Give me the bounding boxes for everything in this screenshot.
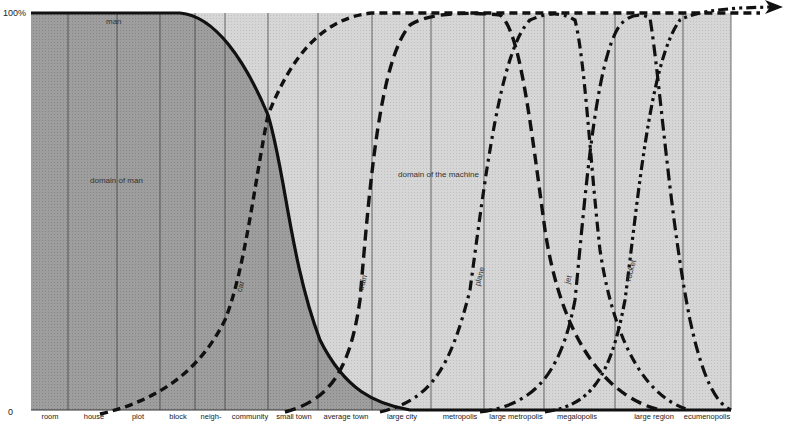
x-label-plot: plot [132,413,144,421]
x-label-room: room [41,413,58,421]
chart [0,0,785,428]
x-label-large-city: large city [387,413,417,421]
x-label-metropolis: metropolis [443,413,478,421]
label-domain-of-man: domain of man [90,176,143,185]
label-domain-of-machine: domain of the machine [398,170,479,179]
x-label-neighbourhood: neigh- [201,413,222,421]
x-label-large-region: large region [634,413,674,421]
x-label-large-metropolis: large metropolis [489,413,542,421]
x-label-small-town: small town [276,413,311,421]
x-label-average-town: average town [323,413,368,421]
y-tick-0: 0 [8,407,13,417]
x-label-ecumenopolis: ecumenopolis [684,413,730,421]
y-tick-100: 100% [3,8,26,18]
x-label-block: block [169,413,187,421]
x-label-community: community [232,413,268,421]
x-label-house: house [84,413,104,421]
x-label-megalopolis: megalopolis [557,413,597,421]
label-man: man [106,17,122,26]
